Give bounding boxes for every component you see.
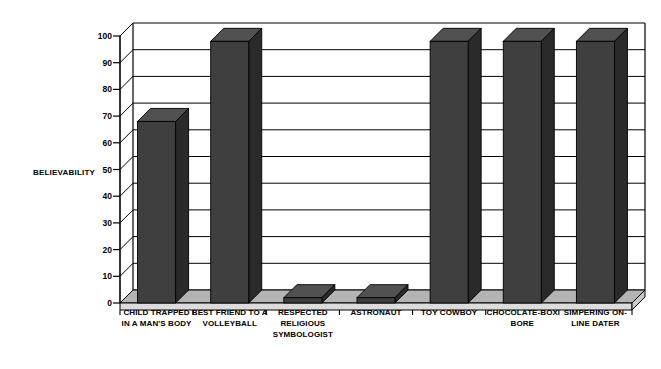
bar-front-face (357, 298, 395, 303)
bar-front-face (138, 121, 176, 303)
bar-front-face (211, 41, 249, 303)
x-axis-category-label-line: SIMPERING ON- (555, 307, 636, 318)
chart-container: BELIEVABILITY 0102030405060708090100 CHI… (0, 0, 661, 369)
x-axis-category-label-line: TOY COWBOY (409, 307, 490, 318)
x-axis-category-label-line: SYMBOLOGIST (262, 329, 343, 340)
x-axis-category-label: SIMPERING ON-LINE DATER (555, 307, 636, 329)
bar-front-face (284, 298, 322, 303)
x-axis-category-label: CHOCOLATE-BOXBORE (482, 307, 563, 329)
x-axis-category-label-line: ASTRONAUT (335, 307, 416, 318)
x-axis-category-label: CHILD TRAPPEDIN A MAN'S BODY (116, 307, 197, 329)
x-axis-category-label-line: RESPECTED (262, 307, 343, 318)
x-axis-category-label: RESPECTEDRELIGIOUSSYMBOLOGIST (262, 307, 343, 340)
bar (138, 108, 189, 303)
bar-front-face (430, 41, 468, 303)
x-axis-category-label-line: LINE DATER (555, 318, 636, 329)
bar (430, 28, 481, 303)
bar-side-face (249, 28, 262, 303)
x-axis-category-labels: CHILD TRAPPEDIN A MAN'S BODYBEST FRIEND … (0, 307, 661, 369)
x-axis-category-label-line: CHILD TRAPPED (116, 307, 197, 318)
bar-side-face (541, 28, 554, 303)
bar-side-face (176, 108, 189, 303)
bar (211, 28, 262, 303)
bar (503, 28, 554, 303)
x-axis-category-label-line: RELIGIOUS (262, 318, 343, 329)
x-axis-category-label-line: BEST FRIEND TO A (189, 307, 270, 318)
x-axis-category-label-line: CHOCOLATE-BOX (482, 307, 563, 318)
x-axis-category-label: ASTRONAUT (335, 307, 416, 318)
gridlines-group (120, 23, 645, 303)
bar-front-face (503, 41, 541, 303)
x-axis-category-label-line: BORE (482, 318, 563, 329)
bar-side-face (468, 28, 481, 303)
bar-side-face (614, 28, 627, 303)
x-axis-category-label-line: VOLLEYBALL (189, 318, 270, 329)
bar-front-face (576, 41, 614, 303)
x-axis-category-label: TOY COWBOY (409, 307, 490, 318)
x-axis-category-label-line: IN A MAN'S BODY (116, 318, 197, 329)
bar (576, 28, 627, 303)
x-axis-category-label: BEST FRIEND TO AVOLLEYBALL (189, 307, 270, 329)
